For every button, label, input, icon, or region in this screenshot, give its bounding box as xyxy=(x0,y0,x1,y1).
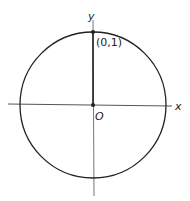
x-axis xyxy=(8,104,172,106)
y-axis-label: y xyxy=(87,10,95,23)
x-axis-label: x xyxy=(174,100,182,113)
point-label: (0,1) xyxy=(96,36,122,49)
top-point xyxy=(91,30,95,34)
unit-circle-diagram: y (0,1) O x xyxy=(0,0,190,201)
origin-label: O xyxy=(95,110,104,123)
origin-point xyxy=(91,103,95,107)
